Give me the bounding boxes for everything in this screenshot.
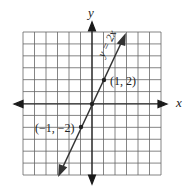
point-origin [90, 102, 94, 106]
coordinate-plane [0, 0, 191, 192]
line-arrow-up-icon [118, 35, 125, 45]
y-axis-arrow-up-icon [89, 22, 96, 31]
point-label-1-2: (1, 2) [110, 75, 136, 87]
line-arrow-down-icon [59, 165, 66, 175]
point-label-neg1-neg2: (−1, −2) [35, 122, 75, 134]
y-axis-arrow-down-icon [89, 175, 96, 184]
x-axis-label: x [176, 96, 182, 109]
x-axis-arrow-right-icon [158, 101, 167, 108]
y-axis-label: y [88, 6, 94, 19]
point-neg1-neg2 [79, 125, 83, 129]
point-1-2 [102, 78, 106, 82]
x-axis-arrow-left-icon [14, 101, 23, 108]
